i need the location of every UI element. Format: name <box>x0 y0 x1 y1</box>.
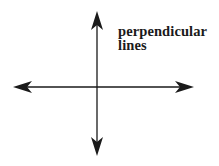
label-line-1: perpendicular <box>118 24 207 38</box>
vertical-line <box>91 11 103 156</box>
horizontal-line <box>13 81 194 93</box>
label-line-2: lines <box>118 38 207 52</box>
diagram-label: perpendicular lines <box>118 24 207 52</box>
